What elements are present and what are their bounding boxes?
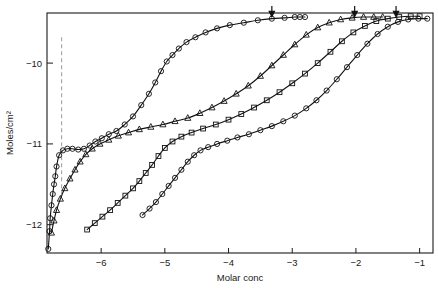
- isotherm-plot: −6−5−4−3−2−1−10−11−12 Molar conc Moles/c…: [0, 0, 438, 288]
- x-axis-title: Molar conc: [217, 272, 264, 283]
- y-tick-label: −10: [26, 58, 42, 69]
- y-axis-title: Moles/cm²: [4, 111, 15, 155]
- cmc-arrow-1-head: [269, 11, 274, 16]
- y-tick-label: −11: [27, 138, 42, 149]
- cmc-arrows: [269, 6, 398, 17]
- axis-ticks: [47, 63, 420, 253]
- x-tick-label: −1: [414, 257, 425, 268]
- x-tick-label: −3: [287, 257, 298, 268]
- x-tick-label: −5: [159, 257, 170, 268]
- curve-4-line: [143, 19, 428, 215]
- cmc-arrow-3-head: [393, 11, 398, 16]
- x-tick-label: −2: [351, 257, 362, 268]
- chart-figure: −6−5−4−3−2−1−10−11−12 Molar conc Moles/c…: [0, 0, 438, 288]
- curve-1-line: [48, 17, 305, 249]
- x-tick-label: −6: [96, 257, 107, 268]
- axis-tick-labels: −6−5−4−3−2−1−10−11−12: [26, 58, 425, 268]
- curve-3-line: [87, 16, 419, 229]
- y-tick-label: −12: [26, 219, 42, 230]
- x-tick-label: −4: [223, 257, 234, 268]
